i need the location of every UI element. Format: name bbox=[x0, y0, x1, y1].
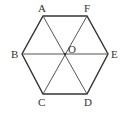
label-F: F bbox=[84, 2, 90, 14]
center-point bbox=[64, 53, 66, 55]
hexagon-diagram: A F B E O C D bbox=[0, 0, 121, 113]
label-O: O bbox=[68, 43, 76, 55]
label-E: E bbox=[111, 48, 118, 60]
label-B: B bbox=[11, 48, 18, 60]
label-D: D bbox=[84, 96, 92, 108]
label-A: A bbox=[38, 2, 46, 14]
label-C: C bbox=[38, 96, 45, 108]
